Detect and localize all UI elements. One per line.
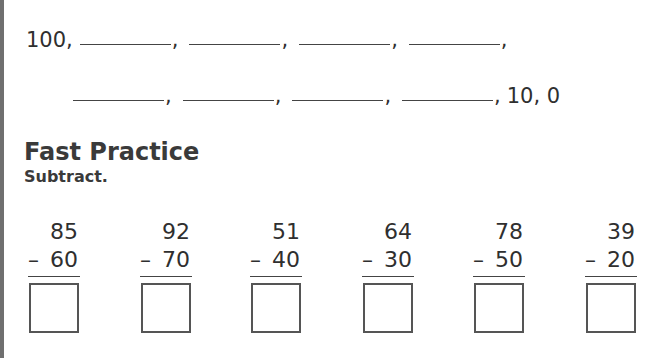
section-instruction: Subtract. bbox=[24, 167, 108, 186]
sequence-row-2: , , , , 10, 0 bbox=[72, 84, 560, 108]
subtraction-problem: 64 –30 bbox=[362, 218, 416, 333]
answer-rule bbox=[585, 276, 637, 277]
answer-blank[interactable] bbox=[299, 44, 390, 45]
minus-sign: – bbox=[140, 246, 151, 274]
subtrahend: 30 bbox=[384, 246, 412, 274]
subtraction-problem: 39 –20 bbox=[585, 218, 639, 333]
answer-box[interactable] bbox=[29, 283, 79, 333]
subtraction-problem: 51 –40 bbox=[250, 218, 304, 333]
answer-blank[interactable] bbox=[80, 44, 171, 45]
minus-sign: – bbox=[362, 246, 373, 274]
minuend: 64 bbox=[362, 218, 416, 246]
sequence-start: 100, bbox=[26, 28, 73, 52]
minuend: 92 bbox=[140, 218, 194, 246]
answer-blank[interactable] bbox=[189, 44, 280, 45]
subtraction-problem: 85 –60 bbox=[28, 218, 82, 333]
minus-sign: – bbox=[250, 246, 261, 274]
answer-rule bbox=[250, 276, 302, 277]
answer-blank[interactable] bbox=[183, 100, 274, 101]
answer-rule bbox=[28, 276, 80, 277]
subtrahend: 60 bbox=[50, 246, 78, 274]
sequence-row-1: 100, , , , , bbox=[26, 28, 518, 52]
minuend: 51 bbox=[250, 218, 304, 246]
subtrahend: 50 bbox=[495, 246, 523, 274]
answer-blank[interactable] bbox=[292, 100, 383, 101]
answer-box[interactable] bbox=[474, 283, 524, 333]
subtraction-problem: 78 –50 bbox=[473, 218, 527, 333]
minus-sign: – bbox=[585, 246, 596, 274]
subtrahend: 70 bbox=[162, 246, 190, 274]
section-title: Fast Practice bbox=[24, 138, 199, 166]
answer-blank[interactable] bbox=[73, 100, 164, 101]
minus-sign: – bbox=[473, 246, 484, 274]
subtraction-problem: 92 –70 bbox=[140, 218, 194, 333]
answer-rule bbox=[473, 276, 525, 277]
subtrahend: 20 bbox=[607, 246, 635, 274]
answer-blank[interactable] bbox=[409, 44, 500, 45]
page-edge-rule bbox=[0, 0, 4, 358]
answer-box[interactable] bbox=[251, 283, 301, 333]
answer-box[interactable] bbox=[586, 283, 636, 333]
answer-rule bbox=[362, 276, 414, 277]
subtrahend: 40 bbox=[272, 246, 300, 274]
minuend: 85 bbox=[28, 218, 82, 246]
minus-sign: – bbox=[28, 246, 39, 274]
answer-box[interactable] bbox=[141, 283, 191, 333]
minuend: 39 bbox=[585, 218, 639, 246]
answer-blank[interactable] bbox=[402, 100, 493, 101]
answer-box[interactable] bbox=[363, 283, 413, 333]
sequence-end: 10, 0 bbox=[507, 84, 560, 108]
answer-rule bbox=[140, 276, 192, 277]
minuend: 78 bbox=[473, 218, 527, 246]
